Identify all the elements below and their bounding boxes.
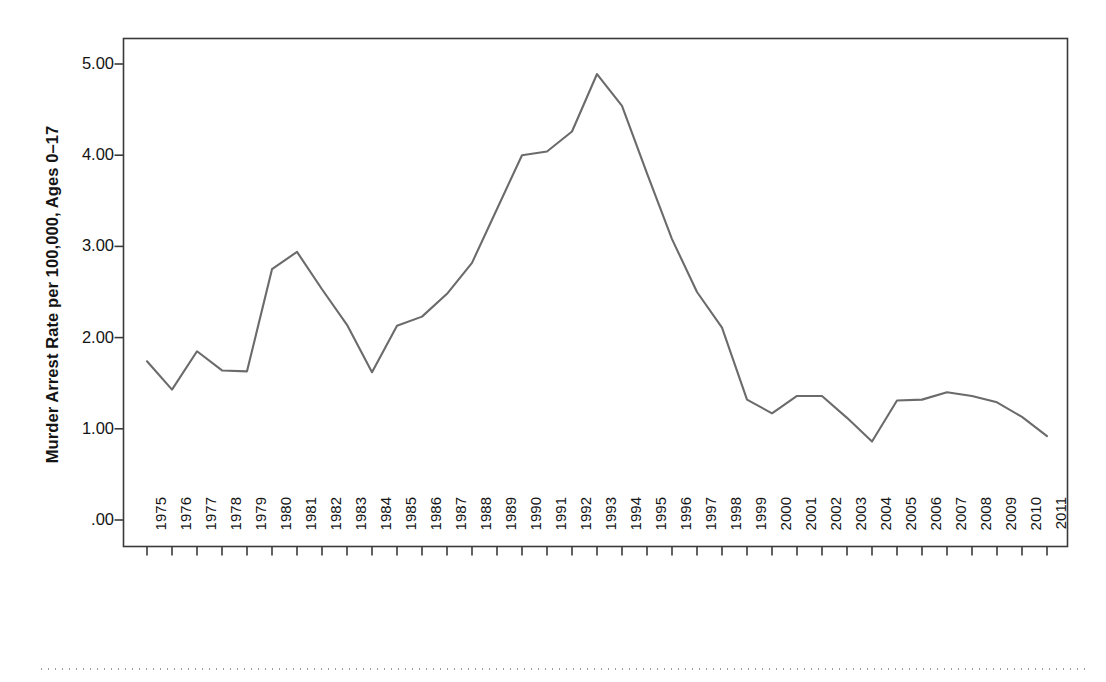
data-line-series <box>147 74 1047 442</box>
chart-figure: Murder Arrest Rate per 100,000, Ages 0–1… <box>0 0 1106 682</box>
plot-frame <box>124 39 1068 547</box>
chart-plot-area <box>0 0 1106 682</box>
y-axis-ticks <box>115 64 124 520</box>
plot-border <box>124 39 1068 547</box>
x-axis-ticks <box>147 547 1047 556</box>
dotted-scan-line <box>38 668 1088 670</box>
